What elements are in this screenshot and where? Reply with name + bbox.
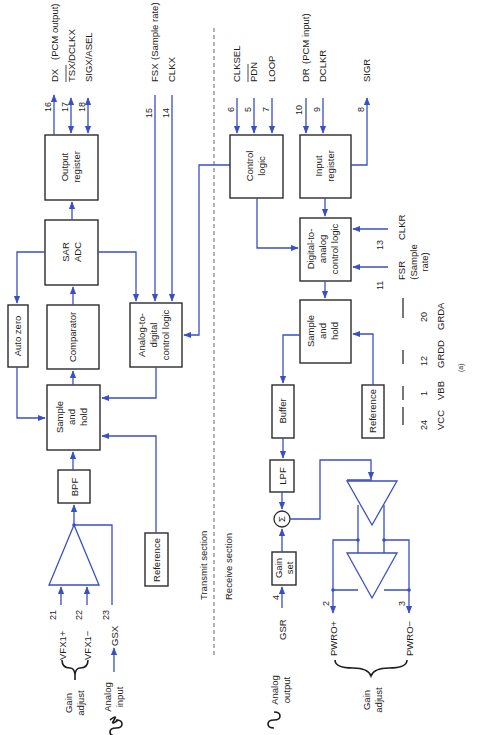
pin-vfx1m-label: VFX1− — [82, 630, 93, 660]
rx-output-amplifiers — [347, 480, 397, 598]
pin-vfx1p-label: VFX1+ — [57, 630, 68, 660]
svg-text:Input: Input — [313, 155, 324, 176]
svg-text:and: and — [66, 409, 77, 425]
svg-text:10: 10 — [294, 105, 304, 115]
pin-clksel-label: CLKSEL — [231, 46, 242, 82]
tx-analog-input: Analog input — [102, 682, 125, 735]
svg-text:Analog: Analog — [102, 682, 113, 712]
lpf-block: LPF — [270, 460, 294, 492]
svg-text:Digital-to-: Digital-to- — [305, 229, 316, 270]
bpf-block: BPF — [58, 470, 90, 503]
tx-gain-adjust: Gain adjust — [62, 660, 88, 716]
pin-pdn-label: PDN — [248, 62, 259, 82]
tx-sample-hold-block: Sample and hold — [47, 385, 100, 450]
pin-dx-label: DX — [49, 68, 60, 82]
svg-text:21: 21 — [48, 610, 58, 620]
svg-text:3: 3 — [397, 601, 407, 606]
tx-reference-block: Reference — [145, 533, 168, 586]
pin-loop-label: LOOP — [266, 56, 277, 82]
svg-text:14: 14 — [161, 108, 171, 118]
svg-text:hold: hold — [78, 408, 89, 426]
svg-text:GRDA: GRDA — [435, 302, 446, 330]
pin-sigr-label: SIGR — [361, 59, 372, 82]
svg-text:Auto zero: Auto zero — [12, 316, 23, 357]
svg-text:LPF: LPF — [277, 467, 288, 485]
auto-zero-block: Auto zero — [8, 305, 28, 367]
svg-text:Analog: Analog — [269, 675, 280, 705]
power-pins: 24 VCC 1 VBB 12 GRDD 20 GRDA — [403, 298, 446, 430]
svg-text:analog: analog — [317, 235, 328, 264]
svg-text:Control: Control — [244, 151, 255, 182]
svg-text:ADC: ADC — [72, 242, 83, 262]
svg-text:13: 13 — [375, 240, 385, 250]
svg-text:SAR: SAR — [60, 242, 71, 262]
svg-text:4: 4 — [271, 595, 281, 600]
pin-dr-note: (PCM input) — [300, 13, 311, 64]
svg-text:20: 20 — [419, 312, 429, 322]
input-register-block: Input register — [300, 135, 351, 198]
pin-pwro-plus-label: PWRO+ — [328, 620, 339, 656]
svg-text:23: 23 — [101, 610, 111, 620]
svg-text:15: 15 — [144, 108, 154, 118]
pin-pwro-minus-label: PWRO− — [404, 620, 415, 656]
svg-text:9: 9 — [312, 107, 322, 112]
pin-clkx-label: CLKX — [166, 57, 177, 82]
pin-sigx-label: SIGX/ASEL — [83, 32, 94, 82]
svg-text:VBB: VBB — [435, 381, 446, 400]
svg-text:hold: hold — [329, 322, 340, 340]
svg-text:6: 6 — [226, 107, 236, 112]
svg-text:1: 1 — [419, 391, 429, 396]
svg-text:18: 18 — [77, 102, 87, 112]
da-control-logic-block: Digital-to- analog control logic — [300, 218, 351, 281]
rx-analog-output: Analog output — [268, 675, 292, 728]
pin-gsr-label: GSR — [277, 619, 288, 640]
svg-text:16: 16 — [43, 102, 53, 112]
svg-text:2: 2 — [321, 601, 331, 606]
pin-tsx-label: TSX/DCLKX — [66, 29, 77, 82]
svg-text:output: output — [281, 676, 292, 703]
pin-fsx-note: (Sample rate) — [149, 2, 160, 60]
receive-section-label: Receive section — [223, 533, 234, 600]
svg-text:8: 8 — [356, 107, 366, 112]
svg-text:5: 5 — [243, 107, 253, 112]
codec-block-diagram: Transmit section Receive section Output … — [0, 0, 493, 735]
svg-text:7: 7 — [261, 107, 271, 112]
svg-text:Reference: Reference — [151, 538, 162, 582]
pin-fsx-label: FSX — [149, 63, 160, 82]
control-logic-block: Control logic — [230, 135, 283, 198]
svg-text:22: 22 — [74, 610, 84, 620]
svg-text:logic: logic — [256, 156, 267, 176]
svg-text:register: register — [71, 151, 82, 183]
svg-text:Buffer: Buffer — [277, 398, 288, 423]
svg-text:digital: digital — [148, 323, 159, 348]
pin-dclkr-label: DCLKR — [317, 50, 328, 82]
svg-text:Sample: Sample — [54, 401, 65, 433]
svg-text:Output: Output — [59, 152, 70, 181]
svg-text:GRDD: GRDD — [435, 340, 446, 368]
buffer-block: Buffer — [272, 385, 294, 438]
rx-reference-block: Reference — [362, 385, 384, 438]
svg-text:set: set — [284, 561, 295, 574]
svg-text:Analog-to-: Analog-to- — [136, 313, 147, 357]
svg-text:rate): rate) — [419, 252, 430, 272]
svg-text:17: 17 — [60, 102, 70, 112]
sine-wave-icon — [268, 712, 280, 728]
svg-text:and: and — [317, 323, 328, 339]
tx-input-amplifier — [49, 525, 99, 585]
pin-gsx-label: GSX — [109, 625, 120, 646]
svg-text:VCC: VCC — [435, 410, 446, 430]
rx-sample-hold-block: Sample and hold — [300, 300, 351, 363]
svg-text:adjust: adjust — [373, 687, 384, 713]
svg-text:Σ: Σ — [276, 516, 287, 522]
svg-text:(Sample: (Sample — [408, 244, 419, 279]
svg-text:12: 12 — [419, 356, 429, 366]
svg-text:Reference: Reference — [367, 389, 378, 433]
svg-text:adjust: adjust — [75, 690, 86, 716]
comparator-block: Comparator — [47, 305, 99, 369]
svg-text:register: register — [325, 150, 336, 182]
svg-text:Gain: Gain — [361, 690, 372, 710]
svg-text:24: 24 — [419, 420, 429, 430]
svg-text:BPF: BPF — [69, 478, 80, 497]
svg-text:Comparator: Comparator — [67, 312, 78, 362]
rx-gain-adjust: Gain adjust — [335, 660, 407, 713]
